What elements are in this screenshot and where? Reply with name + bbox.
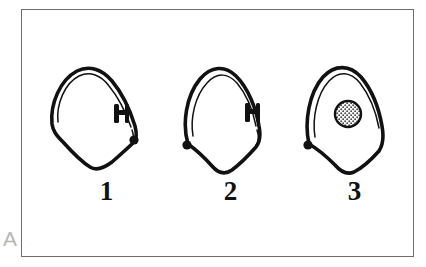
dot-marker-icon-1: [129, 135, 138, 144]
dot-marker-icon-2: [182, 140, 191, 149]
figure-3-caption: 3: [292, 178, 417, 205]
tooth-outline-figure-1: [44, 52, 169, 177]
stippled-lesion-icon-3: [335, 101, 361, 127]
tooth-outline-figure-3-group: 3: [292, 52, 417, 227]
tooth-outline-figure-3: [292, 52, 417, 177]
bar-marker-icon-1: [114, 104, 129, 123]
figure-1-caption: 1: [44, 178, 169, 205]
figure-1-group: 1: [44, 52, 169, 227]
diagram-root: A 1: [0, 0, 426, 267]
figure-2-group: 2: [168, 52, 293, 227]
dot-marker-icon-3: [303, 140, 312, 149]
figure-2-caption: 2: [168, 178, 293, 205]
panel-label: A: [3, 228, 17, 249]
tooth-outline-figure-2: [168, 52, 293, 177]
